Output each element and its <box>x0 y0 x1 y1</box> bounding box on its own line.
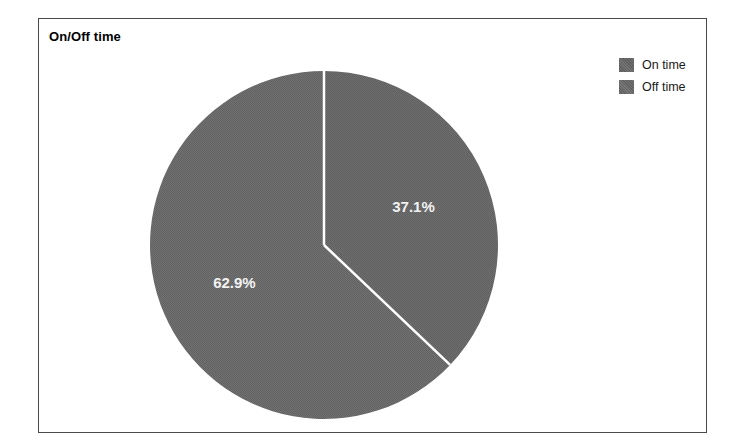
pie-chart-plot-area: 37.1% 62.9% <box>39 19 706 432</box>
chart-frame: On/Off time 37.1 <box>38 18 707 433</box>
pie-label-on-time: 37.1% <box>392 198 435 215</box>
legend-swatch-off-time-icon <box>619 80 634 94</box>
legend-item-off-time[interactable]: Off time <box>619 79 686 95</box>
legend-label-on-time: On time <box>642 58 686 72</box>
chart-legend: On time Off time <box>619 57 686 95</box>
pie-label-off-time: 62.9% <box>213 274 256 291</box>
legend-item-on-time[interactable]: On time <box>619 57 686 73</box>
legend-label-off-time: Off time <box>642 80 686 94</box>
legend-swatch-on-time-icon <box>619 58 634 72</box>
pie-chart-svg: 37.1% 62.9% <box>39 19 706 432</box>
